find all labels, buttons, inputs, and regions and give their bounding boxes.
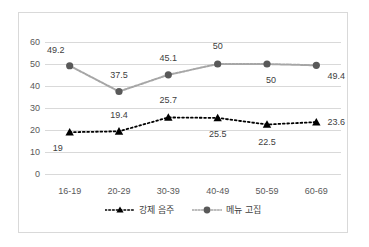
chart-frame: 0102030405060 16-1920-2930-3940-4950-596…	[18, 12, 348, 233]
data-point-value-label: 25.5	[209, 129, 227, 139]
y-axis-tick-label: 30	[30, 103, 40, 113]
chart-legend: 강제 음주 메뉴 고집	[19, 203, 347, 216]
legend-marker-triangle-icon	[105, 205, 135, 215]
gridline	[45, 174, 341, 175]
x-axis-tick-label: 60-69	[305, 186, 328, 196]
data-point-circle-marker	[214, 60, 221, 67]
data-point-value-label: 45.1	[160, 53, 178, 63]
y-axis-tick-label: 10	[30, 147, 40, 157]
data-point-circle-marker	[165, 71, 172, 78]
legend-label-forced-drinking: 강제 음주	[139, 203, 174, 216]
y-axis-tick-label: 60	[30, 37, 40, 47]
data-point-triangle-marker	[65, 128, 73, 136]
data-point-value-label: 22.5	[258, 137, 276, 147]
data-point-circle-marker	[263, 60, 270, 67]
y-axis-tick-label: 50	[30, 59, 40, 69]
legend-item-menu-insistence[interactable]: 메뉴 고집	[192, 203, 261, 216]
data-point-value-label: 49.4	[328, 71, 346, 81]
x-axis-tick-label: 50-59	[255, 186, 278, 196]
x-axis-tick-label: 16-19	[58, 186, 81, 196]
series-svg-layer	[45, 42, 341, 174]
data-point-value-label: 19.4	[110, 110, 128, 120]
x-axis-tick-label: 30-39	[157, 186, 180, 196]
data-point-value-label: 23.6	[328, 117, 346, 127]
data-point-circle-marker	[115, 88, 122, 95]
legend-item-forced-drinking[interactable]: 강제 음주	[105, 203, 174, 216]
x-axis-tick-label: 40-49	[206, 186, 229, 196]
x-axis-tick-label: 20-29	[107, 186, 130, 196]
data-point-circle-marker	[66, 62, 73, 69]
data-point-value-label: 25.7	[160, 95, 178, 105]
data-point-value-label: 37.5	[110, 70, 128, 80]
y-axis-tick-label: 20	[30, 125, 40, 135]
plot-area: 0102030405060 16-1920-2930-3940-4950-596…	[45, 42, 341, 174]
data-point-value-label: 19	[53, 143, 63, 153]
series-line	[70, 117, 317, 132]
data-point-value-label: 50	[266, 75, 276, 85]
data-point-value-label: 50	[213, 41, 223, 51]
y-axis-tick-label: 0	[35, 169, 40, 179]
data-point-circle-marker	[313, 62, 320, 69]
data-point-value-label: 49.2	[47, 45, 65, 55]
series-line	[70, 64, 317, 92]
legend-label-menu-insistence: 메뉴 고집	[226, 203, 261, 216]
y-axis-tick-label: 40	[30, 81, 40, 91]
legend-marker-circle-icon	[192, 205, 222, 215]
